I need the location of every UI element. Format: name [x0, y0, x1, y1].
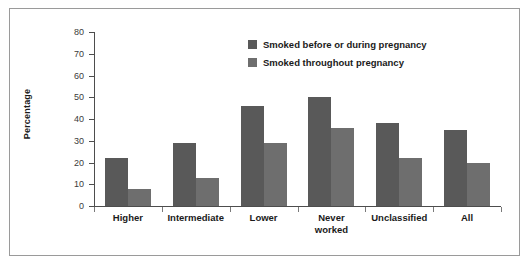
bar-lower-series-2 — [264, 143, 287, 206]
legend-swatch-icon-2 — [248, 58, 257, 67]
legend-item-2: Smoked throughout pregnancy — [248, 57, 427, 68]
x-axis-label-lower: Lower — [230, 212, 298, 224]
bar-intermediate-series-2 — [196, 178, 219, 206]
y-tick-label-10: 10 — [58, 184, 84, 185]
x-axis-label-unclassified: Unclassified — [365, 212, 433, 224]
bar-higher-series-1 — [105, 158, 128, 206]
chart-plot-area: Percentage 01020304050607080 HigherInter… — [10, 9, 521, 257]
x-axis-label-never-worked: Neverworked — [298, 212, 366, 236]
y-tick-label-80: 80 — [58, 32, 84, 33]
bar-never-worked-series-1 — [308, 97, 331, 206]
chart-frame: Percentage 01020304050607080 HigherInter… — [9, 8, 520, 256]
bar-higher-series-2 — [128, 189, 151, 206]
bar-never-worked-series-2 — [331, 128, 354, 206]
x-axis-label-intermediate: Intermediate — [162, 212, 230, 224]
y-tick-label-30: 30 — [58, 141, 84, 142]
bar-unclassified-series-2 — [399, 158, 422, 206]
legend-label-2: Smoked throughout pregnancy — [263, 57, 404, 68]
y-tick-label-0: 0 — [58, 206, 84, 207]
legend-label-1: Smoked before or during pregnancy — [263, 39, 427, 50]
y-tick-label-20: 20 — [58, 163, 84, 164]
bar-all-series-1 — [444, 130, 467, 206]
y-tick-label-70: 70 — [58, 54, 84, 55]
x-axis-label-all: All — [433, 212, 501, 224]
chart-legend: Smoked before or during pregnancySmoked … — [248, 39, 427, 75]
legend-item-1: Smoked before or during pregnancy — [248, 39, 427, 50]
legend-swatch-icon-1 — [248, 40, 257, 49]
y-tick-label-60: 60 — [58, 76, 84, 77]
x-axis-label-higher: Higher — [94, 212, 162, 224]
x-tick-6 — [501, 207, 502, 212]
y-tick-label-50: 50 — [58, 97, 84, 98]
y-tick-label-40: 40 — [58, 119, 84, 120]
bar-unclassified-series-1 — [376, 123, 399, 206]
bar-lower-series-1 — [241, 106, 264, 206]
y-axis-title: Percentage — [22, 59, 32, 169]
bar-intermediate-series-1 — [173, 143, 196, 206]
bar-all-series-2 — [467, 163, 490, 207]
